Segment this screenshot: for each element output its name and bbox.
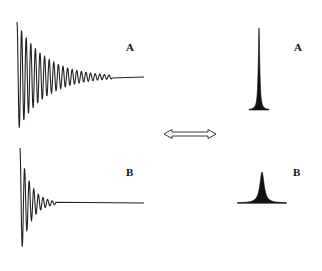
spectrum-b-label: B [293, 166, 301, 178]
spectrum-b-peak [238, 172, 286, 203]
signal-a-waveform [17, 22, 144, 128]
fid-spectrum-figure: A B A B [0, 0, 322, 271]
spectrum-a-label: A [294, 41, 302, 53]
signal-a-label: A [126, 41, 134, 53]
spectrum-a-peak [249, 28, 269, 110]
signal-b-label: B [126, 166, 134, 178]
signal-b-waveform [20, 148, 144, 247]
double-arrow-icon [164, 130, 216, 139]
